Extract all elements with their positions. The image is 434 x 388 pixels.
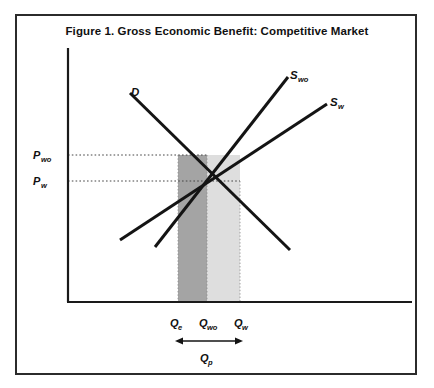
span-arrow-head-left-icon [175, 338, 183, 345]
quantity-label-qw-sub: w [242, 323, 249, 332]
price-label-pw: P w [33, 175, 48, 190]
price-label-pw-sub: w [41, 181, 48, 190]
span-arrow-qp [175, 338, 243, 345]
span-arrow-head-right-icon [235, 338, 243, 345]
demand-label-main: D [131, 86, 139, 98]
economics-supply-demand-plot: D S wo S w P wo P w Q e Q wo Q [0, 0, 434, 388]
supply-wo-curve-label: S wo [290, 69, 309, 84]
price-label-pwo: P wo [33, 149, 52, 164]
quantity-label-qwo: Q wo [199, 317, 218, 332]
span-label-qp: Q p [200, 352, 213, 367]
shaded-region-dark-band [178, 155, 207, 302]
quantity-label-qe-sub: e [178, 323, 182, 332]
figure-container: Figure 1. Gross Economic Benefit: Compet… [0, 0, 434, 388]
quantity-label-qwo-sub: wo [207, 323, 218, 332]
quantity-label-qe: Q e [170, 317, 182, 332]
supply-w-label-sub: w [338, 102, 345, 111]
price-label-pwo-sub: wo [41, 155, 52, 164]
supply-w-label-main: S [330, 96, 338, 108]
supply-w-curve-label: S w [330, 96, 345, 111]
demand-curve-label: D [131, 86, 139, 98]
shaded-region-light-band [207, 155, 240, 302]
price-label-pw-main: P [33, 175, 41, 187]
supply-wo-label-sub: wo [298, 75, 309, 84]
supply-wo-label-main: S [290, 69, 298, 81]
price-label-pwo-main: P [33, 149, 41, 161]
span-label-qp-sub: p [207, 358, 213, 367]
quantity-label-qw: Q w [234, 317, 249, 332]
